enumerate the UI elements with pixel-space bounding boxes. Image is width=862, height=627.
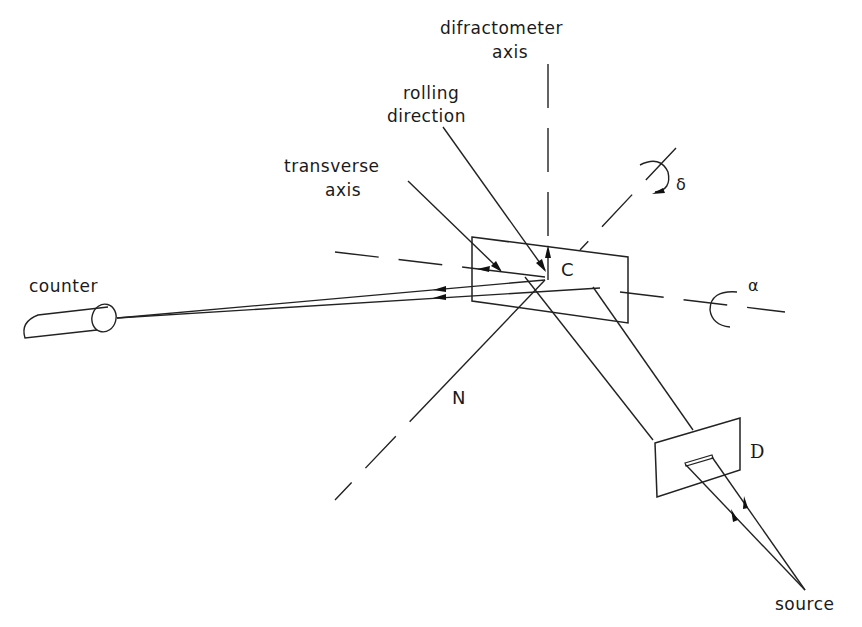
alpha-rotation-icon xyxy=(710,288,745,327)
diffraction-geometry-diagram: difractometer axis rolling direction tra… xyxy=(0,0,862,627)
normal-label: N xyxy=(452,387,466,408)
transverse-axis-leader xyxy=(408,181,500,270)
source-beam-arrowhead-right xyxy=(743,496,748,509)
source-beam-left xyxy=(686,465,805,590)
delta-label: δ xyxy=(676,175,686,194)
slit-label: D xyxy=(750,441,765,462)
rolling-direction-label-2: direction xyxy=(387,106,466,126)
incident-beam-right xyxy=(593,287,693,430)
normal-line-dashed xyxy=(335,390,440,500)
slit-plate xyxy=(655,418,740,497)
diffracted-beam-arrowhead-lower xyxy=(433,294,446,300)
counter-detector xyxy=(24,301,119,338)
difractometer-axis-label-2: axis xyxy=(492,42,528,62)
delta-rotation-icon xyxy=(640,161,669,194)
source-beam-right xyxy=(712,457,805,590)
crystal-plate xyxy=(472,237,628,323)
alpha-axis-line-left xyxy=(335,252,470,268)
rolling-direction-label-1: rolling xyxy=(403,83,459,103)
difractometer-axis-label-1: difractometer xyxy=(440,18,563,38)
source-beam-arrowhead-left xyxy=(731,509,738,522)
alpha-axis-line-right xyxy=(620,292,785,312)
alpha-label: α xyxy=(748,276,759,295)
transverse-axis-label-2: axis xyxy=(325,180,361,200)
transverse-axis-label-1: transverse xyxy=(284,156,380,176)
crystal-label: C xyxy=(561,259,574,280)
diffracted-beam-arrowhead-upper xyxy=(433,286,446,292)
source-label: source xyxy=(775,594,834,614)
counter-label: counter xyxy=(29,276,98,296)
